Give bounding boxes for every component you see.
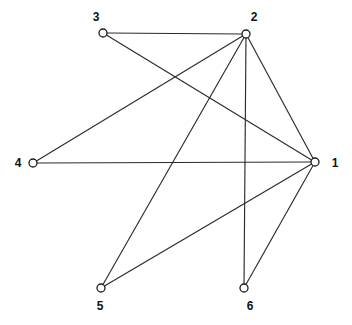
- graph-vertex-1[interactable]: [311, 158, 319, 166]
- vertex-label-4: 4: [15, 157, 22, 169]
- graph-vertex-4[interactable]: [29, 159, 37, 167]
- vertex-label-5: 5: [97, 300, 104, 312]
- graph-edge-4-1: [37, 162, 311, 163]
- graph-edge-5-2: [103, 37, 244, 284]
- vertex-label-3: 3: [93, 11, 100, 23]
- graph-vertex-2[interactable]: [242, 30, 250, 38]
- vertex-label-2: 2: [251, 11, 258, 23]
- graph-vertex-3[interactable]: [99, 29, 107, 37]
- graph-edge-6-2: [244, 38, 246, 284]
- graph-vertex-5[interactable]: [97, 284, 105, 292]
- graph-figure: 123456: [0, 0, 352, 325]
- graph-edge-3-2: [107, 33, 242, 34]
- graph-edge-5-1: [104, 164, 311, 286]
- vertex-label-6: 6: [247, 300, 254, 312]
- vertex-label-1: 1: [332, 157, 339, 169]
- graph-vertex-6[interactable]: [240, 284, 248, 292]
- graph-canvas: [0, 0, 352, 325]
- edge-layer: [36, 33, 313, 286]
